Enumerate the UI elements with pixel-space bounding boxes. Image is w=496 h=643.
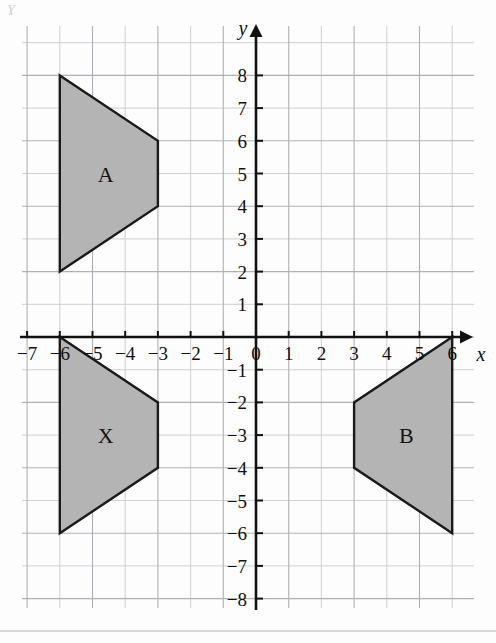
y-tick-label: −4 xyxy=(227,458,248,479)
y-tick-label: 8 xyxy=(238,65,248,86)
y-axis-label: y xyxy=(237,17,248,40)
x-tick-label: −6 xyxy=(50,343,70,364)
y-tick-label: −7 xyxy=(227,556,247,577)
x-axis-arrowhead xyxy=(460,331,473,344)
coordinate-plane-svg: −7−6−5−4−3−2−1012345687654321−1−2−3−4−5−… xyxy=(0,0,496,643)
y-tick-label: −5 xyxy=(227,491,247,512)
x-axis-label: x xyxy=(476,343,486,365)
axis-name-labels: xy xyxy=(237,17,486,365)
y-tick-label: −3 xyxy=(227,425,247,446)
y-tick-label: 6 xyxy=(238,131,248,152)
x-tick-label: 4 xyxy=(382,343,392,364)
x-tick-label: −2 xyxy=(180,343,200,364)
y-tick-label: −8 xyxy=(227,589,247,610)
x-tick-label: −3 xyxy=(148,343,168,364)
y-tick-label: −1 xyxy=(227,360,247,381)
x-tick-label: −4 xyxy=(115,343,136,364)
y-tick-label: 7 xyxy=(238,98,248,119)
x-tick-label: 2 xyxy=(317,343,327,364)
shape-label-a: A xyxy=(98,162,114,187)
x-tick-label: 5 xyxy=(415,343,425,364)
y-axis-arrowhead xyxy=(250,24,263,37)
shape-label-b: B xyxy=(399,423,414,448)
x-tick-label: 0 xyxy=(251,343,261,364)
y-tick-label: 5 xyxy=(238,164,248,185)
y-tick-label: −2 xyxy=(227,392,247,413)
scan-artifact-smudge: ɣ xyxy=(8,0,26,14)
y-tick-label: 4 xyxy=(238,196,248,217)
x-tick-label: 6 xyxy=(447,343,457,364)
coordinate-grid-figure: ɣ −7−6−5−4−3−2−1012345687654321−1−2−3−4−… xyxy=(0,0,496,643)
y-tick-label: 2 xyxy=(238,262,248,283)
y-tick-label: −6 xyxy=(227,523,247,544)
y-tick-label: 1 xyxy=(238,294,248,315)
page-bottom-edge xyxy=(0,630,496,632)
x-tick-label: 3 xyxy=(349,343,359,364)
y-tick-label: 3 xyxy=(238,229,248,250)
x-tick-label: −7 xyxy=(17,343,37,364)
shape-label-x: X xyxy=(98,423,114,448)
x-tick-label: 1 xyxy=(284,343,294,364)
x-tick-label: −5 xyxy=(82,343,102,364)
